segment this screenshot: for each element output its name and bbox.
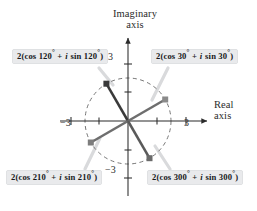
tick-label-real-negative-3: −3: [60, 117, 71, 128]
callout-300-plus: +: [190, 172, 200, 182]
callout-120-sin: sin 120: [68, 51, 97, 61]
callout-300-coef: 2(cos 300: [152, 172, 187, 182]
imaginary-axis-label-line1: Imaginary: [99, 8, 171, 19]
complex-plane-figure: Imaginary axis Real axis −3 3 3 −3 2(cos…: [0, 0, 257, 211]
callout-300-close: ): [235, 172, 238, 182]
callout-30-sin: sin 30: [203, 51, 227, 61]
imaginary-axis-label: Imaginary axis: [99, 8, 171, 30]
callout-120-degrees: 2(cos 120° + i sin 120°): [12, 49, 108, 64]
callout-210-sin: sin 210: [62, 172, 91, 182]
callout-300-degrees: 2(cos 300° + i sin 300°): [147, 170, 243, 185]
vector-30: [128, 100, 165, 122]
point-marker-210: [88, 140, 94, 146]
tick-label-imaginary-negative-3: −3: [105, 164, 116, 175]
callout-120-plus: +: [55, 51, 65, 61]
callout-210-coef: 2(cos 210: [11, 172, 46, 182]
callout-210-plus: +: [49, 172, 59, 182]
callout-120-close: ): [100, 51, 103, 61]
callout-30-plus: +: [190, 51, 200, 61]
real-axis-label-line2: axis: [214, 110, 254, 121]
vector-210: [91, 121, 128, 143]
point-marker-30: [162, 97, 168, 103]
real-axis-label-line1: Real: [214, 99, 254, 110]
tick-label-imaginary-positive-3: 3: [108, 51, 113, 62]
vector-120: [107, 84, 129, 121]
callout-210-degrees: 2(cos 210° + i sin 210°): [6, 170, 102, 185]
callout-300-sin: sin 300: [203, 172, 232, 182]
callout-210-close: ): [94, 172, 97, 182]
callout-30-degrees: 2(cos 30° + i sin 30°): [151, 49, 238, 64]
point-marker-120: [103, 81, 109, 87]
callout-30-coef: 2(cos 30: [156, 51, 187, 61]
vector-300: [128, 121, 150, 158]
imaginary-axis-label-line2: axis: [99, 19, 171, 30]
callout-120-coef: 2(cos 120: [17, 51, 52, 61]
tick-label-real-positive-3: 3: [184, 117, 189, 128]
callout-30-close: ): [230, 51, 233, 61]
real-axis-label: Real axis: [214, 99, 254, 121]
point-marker-300: [147, 155, 153, 161]
